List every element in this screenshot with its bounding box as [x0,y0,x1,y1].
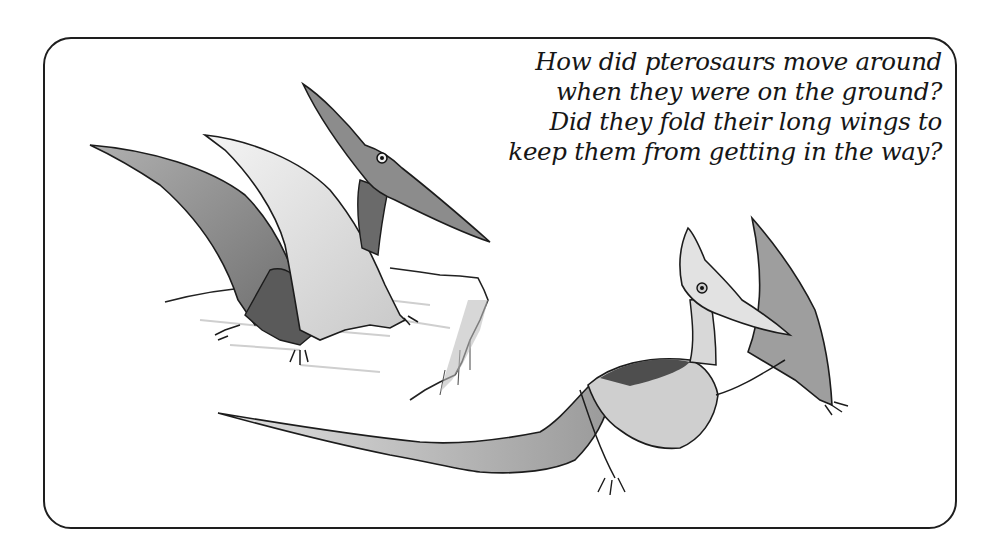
rock-shadow [440,300,488,392]
caption-line-1: How did pterosaurs move around [482,47,942,77]
caption-line-2: when they were on the ground? [482,77,942,107]
caption-text: How did pterosaurs move around when they… [482,47,942,167]
crawling-hand [598,478,625,495]
caption-line-4: keep them from getting in the way? [482,137,942,167]
crawling-near-wing [218,385,612,473]
caption-line-3: Did they fold their long wings to [482,107,942,137]
